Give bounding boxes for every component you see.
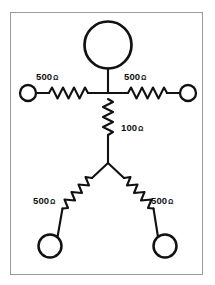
node-left: [20, 85, 36, 101]
label-bottom-left-resistor: 500Ω: [33, 196, 56, 206]
ohm-symbol-icon: Ω: [141, 74, 146, 81]
label-right-resistor: 500Ω: [124, 72, 147, 82]
diagram-canvas: [0, 0, 215, 285]
node-right: [180, 85, 196, 101]
resistor-network-figure: 500Ω 500Ω 100Ω 500Ω 500Ω: [0, 0, 215, 285]
ohm-symbol-icon: Ω: [138, 125, 143, 132]
node-top: [85, 22, 132, 69]
ohm-symbol-icon: Ω: [50, 198, 55, 205]
ohm-symbol-icon: Ω: [53, 74, 58, 81]
ohm-symbol-icon: Ω: [168, 198, 173, 205]
label-left-resistor: 500Ω: [36, 72, 59, 82]
label-middle-resistor: 100Ω: [121, 123, 144, 133]
label-right-resistor-value: 500: [124, 71, 140, 82]
label-left-resistor-value: 500: [36, 71, 52, 82]
label-bottom-right-resistor: 500Ω: [151, 196, 174, 206]
node-bottom-left: [39, 235, 62, 258]
label-bottom-left-resistor-value: 500: [33, 195, 49, 206]
label-middle-resistor-value: 100: [121, 122, 137, 133]
node-bottom-right: [154, 235, 177, 258]
label-bottom-right-resistor-value: 500: [151, 195, 167, 206]
